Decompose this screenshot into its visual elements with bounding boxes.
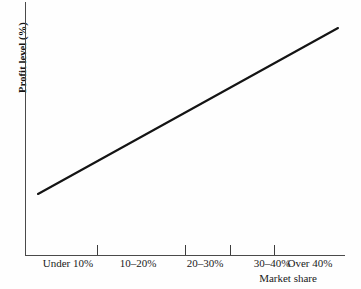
profit-trend-line xyxy=(38,28,338,194)
x-axis-tick xyxy=(185,245,186,255)
profit-market-share-chart: Profit level (%) Under 10%10–20%20–30%30… xyxy=(0,0,361,289)
x-axis-title: Market share xyxy=(228,272,348,284)
y-axis-line xyxy=(25,2,26,256)
x-axis-tick xyxy=(274,245,275,255)
x-axis-tick xyxy=(97,245,98,255)
x-axis-tick-label: Over 40% xyxy=(267,257,353,269)
x-axis-tick xyxy=(230,245,231,255)
data-line-layer xyxy=(0,0,361,289)
